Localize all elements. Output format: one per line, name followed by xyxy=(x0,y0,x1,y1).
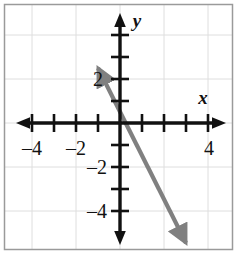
x-tick-label-pos4: 4 xyxy=(204,137,214,159)
x-tick-label-neg2: –2 xyxy=(65,137,86,159)
coordinate-plane-figure: x y –4 –2 4 2 –2 –4 xyxy=(0,0,237,254)
y-axis-label: y xyxy=(131,10,142,31)
y-tick-label-neg4: –4 xyxy=(86,200,107,222)
y-tick-label-neg2: –2 xyxy=(86,156,107,178)
x-axis-label: x xyxy=(197,87,208,108)
x-tick-label-neg4: –4 xyxy=(21,137,42,159)
y-tick-label-pos2: 2 xyxy=(93,68,103,90)
graph-canvas: x y –4 –2 4 2 –2 –4 xyxy=(0,0,237,254)
